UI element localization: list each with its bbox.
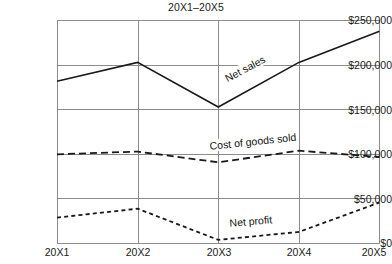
- ytick-label-150000: $150,000: [340, 104, 392, 116]
- xtick-label-20X2: 20X2: [126, 246, 151, 258]
- ytick-label-200000: $200,000: [340, 59, 392, 71]
- series-line-net-profit: [57, 203, 380, 240]
- xtick-label-20X5: 20X5: [362, 246, 387, 258]
- line-chart: 20X1–20X5 $250,000 $200,000 $150,000 $10…: [0, 0, 392, 264]
- ytick-label-50000: $50,000: [340, 193, 392, 205]
- plot-area: [0, 0, 392, 264]
- gridlines: [57, 20, 380, 244]
- xtick-label-20X3: 20X3: [207, 246, 232, 258]
- xtick-label-20X1: 20X1: [45, 246, 70, 258]
- series-line-net-sales: [57, 31, 380, 107]
- ytick-label-100000: $100,000: [340, 148, 392, 160]
- ytick-label-250000: $250,000: [340, 14, 392, 26]
- xtick-label-20X4: 20X4: [287, 246, 312, 258]
- series-line-cost-of-goods-sold: [57, 151, 380, 163]
